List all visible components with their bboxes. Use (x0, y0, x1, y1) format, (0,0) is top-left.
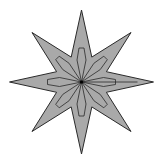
center-point (80, 80, 83, 83)
eight-pointed-star-diagram (0, 0, 163, 166)
